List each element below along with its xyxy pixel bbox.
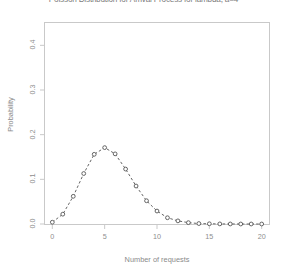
y-axis-label: Probability [6,85,15,145]
y-tick-label: 0.0 [28,212,37,236]
data-points [50,146,263,226]
y-tick-label: 0.3 [28,78,37,102]
x-tick-label: 0 [40,232,64,241]
y-tick-label: 0.1 [28,167,37,191]
chart-canvas: Poisson Distribution for Arrival Process… [0,0,287,273]
x-axis-label: Number of requests [44,255,270,264]
axis-tick-marks [40,45,262,229]
x-tick-label: 5 [93,232,117,241]
x-tick-label: 10 [145,232,169,241]
y-tick-label: 0.2 [28,122,37,146]
y-tick-label: 0.4 [28,33,37,57]
x-tick-label: 20 [250,232,274,241]
x-tick-label: 15 [197,232,221,241]
